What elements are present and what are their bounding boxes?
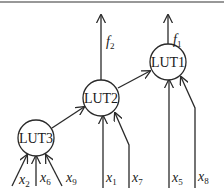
edge-lut2-lut1 (118, 71, 150, 88)
output-label-f1: f1 (173, 32, 181, 49)
node-label: LUT2 (84, 91, 118, 106)
edge-lut3-lut2 (52, 107, 84, 128)
input-label-x6: x6 (39, 170, 51, 187)
input-arrow-x7 (115, 113, 129, 188)
input-label-x7: x7 (131, 170, 143, 187)
input-label-x5: x5 (171, 170, 183, 187)
input-label-x1: x1 (105, 170, 117, 187)
output-label-f2: f2 (106, 34, 114, 51)
input-arrow-x8 (181, 77, 195, 188)
node-lut3: LUT3 (18, 120, 54, 156)
node-lut1: LUT1 (150, 44, 186, 80)
node-label: LUT3 (19, 131, 53, 146)
node-lut2: LUT2 (83, 80, 119, 116)
node-label: LUT1 (151, 55, 185, 70)
input-label-x9: x9 (65, 170, 77, 187)
lut-network-diagram: LUT1 LUT2 LUT3 f2 f1 x2 x6 x9 x1 x7 x5 x… (0, 0, 224, 194)
input-label-x8: x8 (197, 169, 209, 186)
input-label-x2: x2 (18, 172, 30, 189)
